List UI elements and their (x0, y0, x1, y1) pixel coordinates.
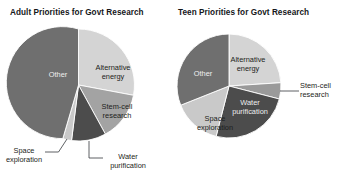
pie-slice-other-adult[interactable] (6, 27, 78, 139)
pie-chart-adult (0, 0, 172, 177)
leader-line-water-purification-adult (89, 141, 103, 158)
figure-canvas: Adult Priorities for Govt Research Alter… (0, 0, 338, 177)
pie-slice-alternative-energy-adult[interactable] (79, 29, 135, 95)
chart-panel-teen: Teen Priorities for Govt Research Altern… (166, 0, 338, 177)
pie-chart-teen (166, 0, 338, 177)
leader-line-space-exploration-adult (45, 139, 67, 152)
chart-panel-adult: Adult Priorities for Govt Research Alter… (0, 0, 172, 177)
pie-slice-alternative-energy-teen[interactable] (229, 34, 281, 86)
